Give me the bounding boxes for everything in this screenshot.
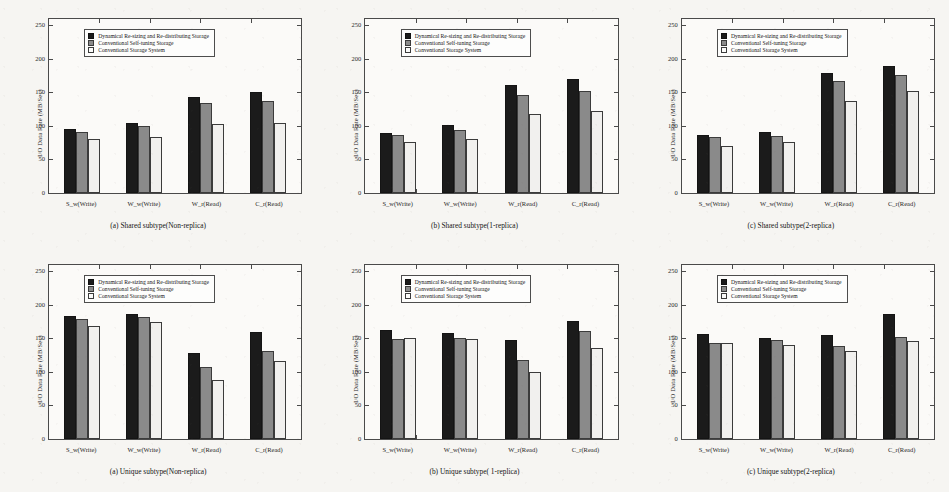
x-tick-label: W_r(Read) [813,446,865,458]
x-tick-label: W_w(Write) [751,200,803,212]
y-tick-label: 200 [35,301,45,308]
chart-panel-inner: I/O Data Rate (MB/Sec)050100150200250Dyn… [0,0,316,246]
legend-swatch-icon [405,279,411,285]
bar-series1 [262,101,274,193]
bar-series0 [442,333,454,439]
x-tick-label: W_r(Read) [180,446,232,458]
bar-series2 [274,361,286,439]
y-tick-label: 0 [42,189,45,196]
legend-label: Dynamical Re-sizing and Re-distributing … [731,33,842,39]
plot-area: 050100150200250Dynamical Re-sizing and R… [681,264,935,440]
legend-label: Dynamical Re-sizing and Re-distributing … [98,33,209,39]
legend-item: Conventional Self-tuning Storage [88,286,209,292]
bar-group [883,265,919,439]
bar-series2 [150,137,162,193]
plot-area: 050100150200250Dynamical Re-sizing and R… [48,264,302,440]
bar-series0 [567,79,579,193]
x-tick-label: C_r(Read) [559,446,611,458]
legend-label: Conventional Storage System [731,47,798,53]
bar-series0 [442,125,454,193]
plot-area: 050100150200250Dynamical Re-sizing and R… [364,18,618,194]
bar-series1 [76,132,88,193]
bar-series0 [188,97,200,193]
y-tick-label: 200 [35,55,45,62]
legend-item: Conventional Self-tuning Storage [88,40,209,46]
bar-series1 [76,319,88,439]
legend-item: Dynamical Re-sizing and Re-distributing … [405,33,526,39]
bar-series0 [759,132,771,193]
bar-series0 [126,314,138,439]
bar-series1 [771,340,783,439]
bar-series1 [895,75,907,193]
legend-item: Conventional Storage System [88,47,209,53]
legend-label: Conventional Storage System [98,47,165,53]
x-tick-label: S_w(Write) [688,200,740,212]
plot-area: 050100150200250Dynamical Re-sizing and R… [48,18,302,194]
bar-series2 [212,380,224,439]
legend-item: Conventional Storage System [721,293,842,299]
chart-panel-inner: I/O Data Rate (MB/Sec)050100150200250Dyn… [316,246,632,492]
y-tick-label: 50 [39,401,46,408]
y-tick-label: 100 [352,368,362,375]
x-tick-label: C_r(Read) [243,446,295,458]
bar-series2 [529,114,541,193]
legend-item: Dynamical Re-sizing and Re-distributing … [721,33,842,39]
bar-series2 [721,343,733,439]
bar-series2 [783,142,795,193]
y-tick-label: 100 [668,122,678,129]
y-tick-label: 250 [35,267,45,274]
bar-series0 [697,334,709,439]
chart-panel-5: I/O Data Rate (MB/Sec)050100150200250Dyn… [633,246,949,492]
y-tick-label: 50 [355,155,362,162]
plot-area: 050100150200250Dynamical Re-sizing and R… [364,264,618,440]
bar-series1 [392,339,404,439]
y-tick-label: 200 [352,55,362,62]
y-tick-label: 100 [35,122,45,129]
bar-series1 [262,351,274,439]
bar-series2 [274,123,286,193]
legend-swatch-icon [405,47,411,53]
legend-label: Conventional Storage System [731,293,798,299]
x-tick-label: S_w(Write) [372,200,424,212]
bar-series2 [907,91,919,193]
bar-series1 [833,81,845,193]
chart-panel-inner: I/O Data Rate (MB/Sec)050100150200250Dyn… [633,246,949,492]
x-tick-label: S_w(Write) [688,446,740,458]
bar-series2 [845,101,857,193]
bar-series1 [517,95,529,193]
bar-series0 [821,335,833,439]
legend: Dynamical Re-sizing and Re-distributing … [401,275,532,303]
y-tick-label: 250 [352,267,362,274]
y-tick-label: 100 [35,368,45,375]
legend-item: Conventional Self-tuning Storage [721,40,842,46]
legend-label: Dynamical Re-sizing and Re-distributing … [415,279,526,285]
legend-label: Dynamical Re-sizing and Re-distributing … [731,279,842,285]
x-tick-labels: S_w(Write)W_w(Write)W_r(Read)C_r(Read) [364,446,618,458]
x-tick-labels: S_w(Write)W_w(Write)W_r(Read)C_r(Read) [681,446,935,458]
y-tick-label: 50 [39,155,46,162]
bar-series1 [200,103,212,193]
plot-area: 050100150200250Dynamical Re-sizing and R… [681,18,935,194]
bar-series0 [821,73,833,193]
bar-series2 [466,139,478,193]
legend-swatch-icon [88,286,94,292]
y-tick-label: 100 [352,122,362,129]
legend-item: Dynamical Re-sizing and Re-distributing … [88,33,209,39]
bar-series1 [454,338,466,439]
legend-item: Dynamical Re-sizing and Re-distributing … [88,279,209,285]
subplot-caption: (c) Shared subtype(2-replica) [633,221,949,230]
legend-label: Conventional Storage System [415,293,482,299]
y-tick-label: 150 [668,334,678,341]
y-tick-label: 150 [35,334,45,341]
legend-swatch-icon [721,286,727,292]
x-tick-labels: S_w(Write)W_w(Write)W_r(Read)C_r(Read) [48,446,302,458]
bar-series0 [883,66,895,193]
x-tick-label: C_r(Read) [243,200,295,212]
bar-series0 [505,85,517,193]
bar-series0 [64,316,76,439]
y-tick-label: 150 [35,88,45,95]
chart-panel-inner: I/O Data Rate (MB/Sec)050100150200250Dyn… [316,0,632,246]
bar-series2 [783,345,795,439]
bar-group [567,265,603,439]
figure-grid: I/O Data Rate (MB/Sec)050100150200250Dyn… [0,0,949,492]
